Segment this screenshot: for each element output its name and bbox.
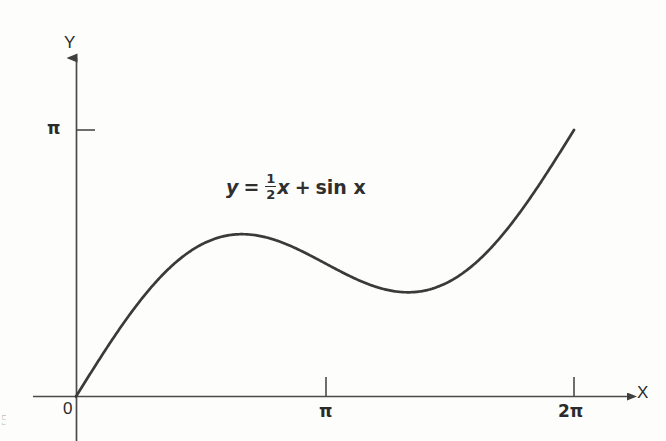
x-axis-label: X <box>637 383 648 403</box>
x-tick-label-2pi: 2π <box>558 401 583 421</box>
equation-annotation: y = 1 2 x + sin x <box>226 172 366 201</box>
page-number-artifact: 5 <box>1 412 6 432</box>
equation-equals: = <box>243 176 259 198</box>
equation-fraction-one-half: 1 2 <box>265 172 276 201</box>
y-axis-label: Y <box>64 33 75 53</box>
fraction-numerator: 1 <box>265 172 276 186</box>
figure-container: Y X π 0 π 2π y = 1 2 x + sin x 5 <box>0 0 666 441</box>
equation-plus: + <box>295 176 311 198</box>
equation-variable-x: x <box>277 176 289 198</box>
y-tick-label-pi: π <box>47 118 60 138</box>
origin-label: 0 <box>63 399 72 419</box>
function-curve-precise <box>76 130 574 397</box>
equation-lhs: y <box>226 176 238 198</box>
equation-sine-term: sin x <box>316 176 366 198</box>
x-tick-label-pi: π <box>319 401 332 421</box>
fraction-denominator: 2 <box>265 186 276 201</box>
function-curve-precise-layer <box>0 0 666 441</box>
